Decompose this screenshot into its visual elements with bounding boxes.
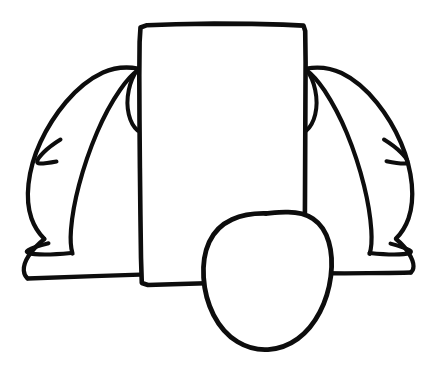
drawing-canvas	[0, 0, 432, 366]
line-drawing-svg	[0, 0, 432, 366]
